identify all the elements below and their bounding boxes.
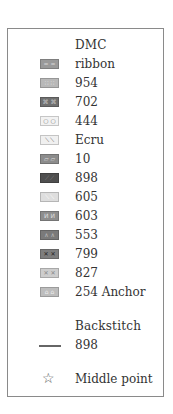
legend-item-label: 898: [75, 170, 98, 186]
legend-item-label: 827: [75, 265, 98, 281]
star-icon: ☆: [42, 370, 55, 386]
legend-item: И И603: [8, 208, 163, 224]
cross-stitch-legend: DMC = =ribbon∷ ∷954⌘ ⌘702○ ○444⟍ ⟍Ecru▱ …: [7, 28, 164, 397]
legend-item-label: 954: [75, 75, 98, 91]
backslash-icon: ⟍ ⟍: [40, 135, 59, 145]
backstitch-line-icon: [39, 345, 61, 347]
legend-item: = =ribbon: [8, 56, 163, 72]
legend-item: ∷ ∷954: [8, 75, 163, 91]
legend-item-label: 605: [75, 189, 98, 205]
chevron-up-icon: ∧ ∧: [40, 230, 59, 240]
reverse-n-icon: И И: [40, 211, 59, 221]
slash-icon: ⟋ ⟋: [40, 173, 59, 183]
legend-item-label: 444: [75, 113, 98, 129]
legend-item-label: 254 Anchor: [75, 284, 146, 300]
legend-item: ✕ ✕799: [8, 246, 163, 262]
middle-point-item: ☆ Middle point: [8, 371, 163, 387]
legend-item: ✕ ✕827: [8, 265, 163, 281]
legend-item-label: Ecru: [75, 132, 104, 148]
backstitch-header: Backstitch: [75, 319, 141, 333]
legend-item-label: ribbon: [75, 56, 115, 72]
legend-item-label: 799: [75, 246, 98, 262]
legend-item: ∧ ∧553: [8, 227, 163, 243]
legend-item: ⟍ ⟍605: [8, 189, 163, 205]
dmc-header: DMC: [75, 38, 107, 52]
legend-item: ⟋ ⟋898: [8, 170, 163, 186]
x-mark-icon: ✕ ✕: [40, 249, 59, 259]
backstitch-label: 898: [75, 337, 98, 353]
backstitch-item: 898: [8, 337, 163, 353]
dots-grid-icon: ∷ ∷: [40, 78, 59, 88]
cross-knot-icon: ⌘ ⌘: [40, 97, 59, 107]
legend-item: ⟍ ⟍Ecru: [8, 132, 163, 148]
legend-item: ⌘ ⌘702: [8, 94, 163, 110]
circle-icon: ○ ○: [40, 116, 59, 126]
diagonal-light-icon: ⟍ ⟍: [40, 192, 59, 202]
parallelogram-icon: ▱ ▱: [40, 154, 59, 164]
house-icon: ⌂ ⌂: [40, 287, 59, 297]
legend-item: ○ ○444: [8, 113, 163, 129]
legend-item: ▱ ▱10: [8, 151, 163, 167]
legend-item: ⌂ ⌂254 Anchor: [8, 284, 163, 300]
legend-item-label: 603: [75, 208, 98, 224]
x-light-icon: ✕ ✕: [40, 268, 59, 278]
legend-item-label: 10: [75, 151, 90, 167]
middle-point-label: Middle point: [75, 371, 153, 387]
legend-item-label: 702: [75, 94, 98, 110]
legend-item-label: 553: [75, 227, 98, 243]
double-dash-icon: = =: [40, 59, 59, 69]
